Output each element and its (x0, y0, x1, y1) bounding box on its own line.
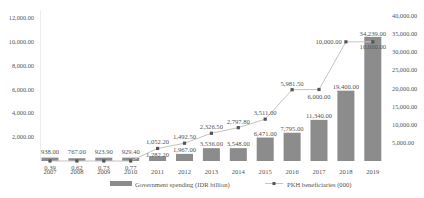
right-y-axis: 5,000.0010,000.0015,000.0020,000.0025,00… (392, 12, 417, 146)
x-axis-tick-label: 2013 (205, 168, 219, 175)
x-axis-tick-label: 2018 (339, 168, 353, 175)
legend: Government spending (IDR billion) PKH be… (110, 181, 351, 189)
line-value-label: 6,000.00 (307, 93, 331, 100)
bar-value-label: 1,282.20 (146, 151, 170, 158)
line-value-label: 10,000.00 (316, 38, 343, 45)
legend-label-beneficiaries: PKH beneficiaries (000) (287, 181, 351, 189)
right-axis-tick-label: 10,000.00 (392, 121, 417, 128)
right-axis-tick-label: 15,000.00 (392, 103, 417, 110)
bar-value-label: 767.00 (68, 148, 87, 155)
bar-value-label: 6,471.00 (254, 130, 278, 137)
line-marker (317, 88, 320, 91)
bar-2017 (311, 120, 328, 161)
left-axis-tick-label: 12,000.00 (9, 14, 34, 21)
right-axis-tick-label: 20,000.00 (392, 85, 417, 92)
bar-value-label: 938.00 (41, 148, 60, 155)
line-marker (183, 142, 186, 145)
x-axis-tick-label: 2014 (232, 168, 246, 175)
legend-marker-icon (273, 182, 276, 185)
line-value-label: 0.62 (71, 164, 83, 171)
x-axis-tick-label: 2012 (178, 168, 191, 175)
line-marker (48, 159, 51, 162)
bar-value-label: 929.40 (122, 148, 141, 155)
x-axis: 2007200820092010201120122013201420152016… (43, 168, 380, 175)
combo-chart: 2,000.004,000.006,000.008,000.0010,000.0… (0, 0, 424, 198)
line-value-label: 0.77 (125, 164, 137, 171)
line-marker (129, 159, 132, 162)
bar-2012 (176, 154, 193, 161)
bar-value-label: 1,967.00 (173, 146, 197, 153)
right-axis-tick-label: 25,000.00 (392, 66, 417, 73)
right-axis-tick-label: 35,000.00 (392, 30, 417, 37)
left-axis-tick-label: 10,000.00 (9, 38, 34, 45)
line-marker (237, 126, 240, 129)
left-axis-tick-label: 6,000.00 (12, 86, 34, 93)
bar-2018 (337, 91, 354, 161)
line-value-label: 2,326.50 (200, 123, 224, 130)
right-axis-tick-label: 40,000.00 (392, 12, 417, 19)
x-axis-tick-label: 2017 (312, 168, 326, 175)
x-axis-tick-label: 2015 (259, 168, 273, 175)
legend-label-spending: Government spending (IDR billion) (135, 181, 230, 189)
bar-value-label: 34,239.00 (360, 30, 387, 37)
line-marker (344, 40, 347, 43)
left-y-axis: 2,000.004,000.006,000.008,000.0010,000.0… (9, 10, 41, 161)
bar-value-label: 3,536.00 (200, 140, 224, 147)
bar-value-label: 19,400.00 (333, 83, 360, 90)
line-marker (102, 159, 105, 162)
x-axis-tick-label: 2011 (151, 168, 164, 175)
line-marker (264, 118, 267, 121)
line-value-label: 5,981.50 (281, 80, 305, 87)
line-marker (291, 88, 294, 91)
bar-value-label: 11,340.00 (306, 112, 333, 119)
bar-value-label: 3,548.00 (227, 140, 251, 147)
left-axis-tick-label: 4,000.00 (12, 109, 34, 116)
right-axis-tick-label: 30,000.00 (392, 48, 417, 55)
line-value-label: 0.39 (44, 164, 56, 171)
line-marker (75, 159, 78, 162)
line-marker (156, 147, 159, 150)
bar-2019 (364, 37, 381, 161)
bar-2013 (203, 148, 220, 161)
x-axis-tick-label: 2019 (366, 168, 380, 175)
bar-value-label: 923.90 (95, 148, 114, 155)
line-value-label: 3,511.00 (254, 109, 278, 116)
line-value-label: 1,052.20 (146, 138, 170, 145)
right-axis-tick-label: 5,000.00 (392, 139, 414, 146)
legend-swatch-bar (110, 181, 132, 186)
line-value-label: 2,797.80 (227, 118, 251, 125)
line-value-label: 0.73 (98, 164, 110, 171)
line-value-label: 1,492.50 (173, 133, 197, 140)
bar-2015 (257, 138, 274, 161)
line-marker (210, 132, 213, 135)
bar-2016 (284, 133, 301, 161)
line-value-label: 10,000.00 (360, 43, 387, 50)
bar-value-label: 7,795.00 (281, 125, 305, 132)
x-axis-tick-label: 2016 (286, 168, 300, 175)
bar-2014 (230, 148, 247, 161)
left-axis-tick-label: 8,000.00 (12, 62, 34, 69)
left-axis-tick-label: 2,000.00 (12, 133, 34, 140)
